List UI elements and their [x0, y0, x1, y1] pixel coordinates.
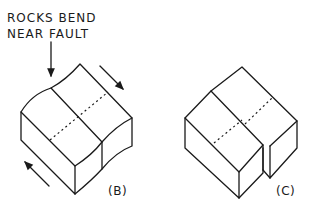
block-c-left-face	[185, 118, 239, 198]
panel-label-c: (C)	[276, 184, 295, 198]
motion-arrow-right	[100, 66, 123, 89]
block-b-fault-trace	[51, 88, 102, 142]
block-c-marker-line-front	[214, 120, 242, 143]
panel-label-b: (B)	[108, 184, 127, 198]
block-c-front-right-face	[239, 145, 263, 198]
block-c-front-top	[185, 91, 263, 172]
block-b-marker-line	[50, 92, 108, 140]
motion-arrow-left	[25, 162, 49, 186]
block-c-fault-step-bottom	[263, 170, 270, 178]
block-c-back-top	[211, 67, 297, 146]
block-c: (C)	[185, 67, 297, 198]
annotation-line-1: ROCKS BEND	[7, 11, 97, 25]
fault-diagram: ROCKS BEND NEAR FAULT (B) (C)	[0, 0, 309, 207]
annotation-line-2: NEAR FAULT	[7, 27, 89, 41]
block-b: (B)	[21, 64, 132, 198]
block-c-marker-line-back	[245, 98, 272, 124]
block-b-right-face	[75, 118, 132, 194]
block-c-back-right-face	[270, 121, 297, 178]
block-b-left-face	[21, 112, 75, 194]
